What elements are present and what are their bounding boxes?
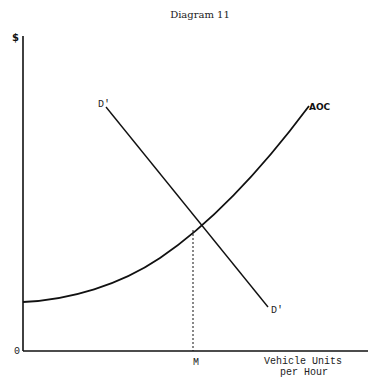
demand-label-top: D'	[98, 99, 110, 110]
diagram-title: Diagram 11	[170, 9, 230, 20]
demand-line	[106, 107, 268, 307]
x-axis-label-line1: Vehicle Units	[264, 356, 342, 367]
y-axis-label: $	[12, 32, 19, 43]
diagram-canvas: Diagram 11 $ 0 Vehicle Units per Hour D'…	[0, 0, 379, 389]
equilibrium-x-label: M	[193, 357, 199, 368]
aoc-curve	[23, 106, 309, 302]
origin-label: 0	[14, 346, 20, 357]
x-axis-label-line2: per Hour	[280, 367, 328, 378]
aoc-label: AOC	[309, 102, 331, 112]
demand-label-bottom: D'	[271, 305, 283, 316]
